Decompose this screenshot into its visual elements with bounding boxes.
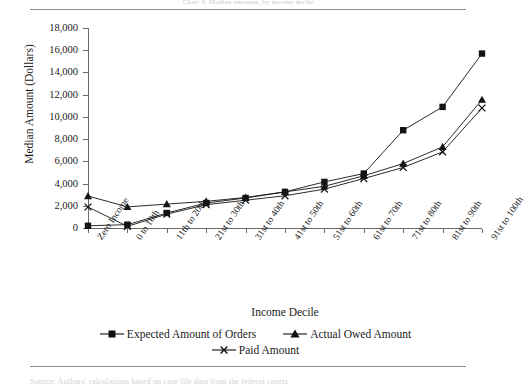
legend-key-cross-icon	[211, 344, 237, 356]
marker-square	[439, 104, 445, 110]
marker-square	[400, 127, 406, 133]
chart-legend: Expected Amount of Orders Actual Owed Am…	[60, 326, 450, 358]
plot-series-layer	[0, 12, 496, 364]
series-actual-owed-amount	[84, 96, 486, 210]
marker-triangle	[399, 160, 407, 167]
legend-item-paid-amount[interactable]: Paid Amount	[211, 342, 299, 358]
series-paid-amount	[85, 105, 486, 230]
marker-triangle	[84, 192, 92, 199]
legend-key-triangle-icon	[282, 328, 308, 340]
marker-cross	[479, 105, 486, 112]
series-line	[88, 108, 482, 226]
legend-label-expected-amount-of-orders: Expected Amount of Orders	[127, 326, 256, 342]
legend-item-actual-owed-amount[interactable]: Actual Owed Amount	[282, 326, 411, 342]
marker-triangle	[478, 96, 486, 103]
legend-key-square-icon	[99, 328, 125, 340]
legend-row-secondary: Paid Amount	[60, 342, 450, 358]
bottom-rule	[30, 366, 466, 367]
marker-square	[479, 50, 485, 56]
legend-row-primary: Expected Amount of Orders Actual Owed Am…	[60, 326, 450, 342]
legend-label-actual-owed-amount: Actual Owed Amount	[310, 326, 411, 342]
legend-item-expected-amount-of-orders[interactable]: Expected Amount of Orders	[99, 326, 256, 342]
series-line	[88, 54, 482, 226]
line-chart: Median Amount (Dollars) Income Decile 18…	[0, 12, 496, 364]
legend-label-paid-amount: Paid Amount	[239, 342, 299, 358]
marker-square	[85, 223, 91, 229]
series-expected-amount-of-orders	[85, 50, 485, 229]
top-rule	[30, 9, 466, 10]
marker-cross	[85, 204, 92, 211]
figure-header-text: Chart 3. Median amounts, by income decil…	[0, 0, 496, 6]
figure-source-note: Source: Authors' calculations based on c…	[0, 376, 466, 386]
